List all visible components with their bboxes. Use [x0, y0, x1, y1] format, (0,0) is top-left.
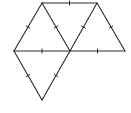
equilateral-triangles-diagram: [0, 0, 131, 113]
